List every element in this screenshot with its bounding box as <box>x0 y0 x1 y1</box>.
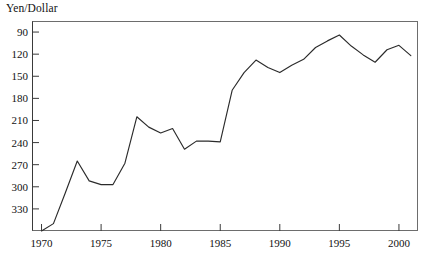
y-tick-label: 240 <box>0 137 28 149</box>
chart-figure: Yen/Dollar 90120150180210240270300330 19… <box>0 0 434 265</box>
y-tick-label: 330 <box>0 203 28 215</box>
x-tick-label: 1970 <box>20 237 64 249</box>
y-tick-label: 210 <box>0 114 28 126</box>
y-axis-title: Yen/Dollar <box>6 2 58 14</box>
y-tick-label: 180 <box>0 92 28 104</box>
x-tick-label: 1985 <box>198 237 242 249</box>
y-tick-label: 270 <box>0 159 28 171</box>
y-tick-label: 90 <box>0 26 28 38</box>
x-tick-label: 1990 <box>258 237 302 249</box>
x-tick-label: 2000 <box>377 237 421 249</box>
plot-area <box>32 21 418 231</box>
y-tick-label: 150 <box>0 70 28 82</box>
y-tick-label: 300 <box>0 181 28 193</box>
x-tick-label: 1980 <box>139 237 183 249</box>
y-tick-label: 120 <box>0 48 28 60</box>
x-tick-label: 1995 <box>317 237 361 249</box>
x-tick-label: 1975 <box>79 237 123 249</box>
